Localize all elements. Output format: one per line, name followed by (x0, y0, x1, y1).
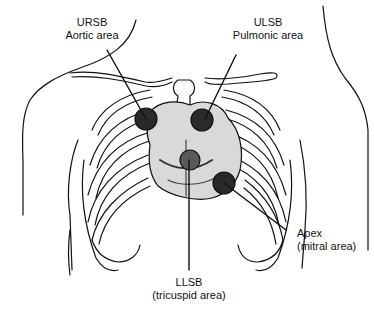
label-apex: Apex (mitral area) (297, 227, 356, 253)
chest-diagram (0, 0, 374, 309)
tricuspid-area-marker (180, 150, 200, 170)
label-ulsb-title: ULSB (227, 16, 309, 29)
label-apex-title: Apex (297, 227, 356, 240)
label-llsb-subtitle: (tricuspid area) (137, 289, 241, 302)
label-ursb-subtitle: Aortic area (56, 29, 128, 42)
pulmonic-area-marker (191, 109, 213, 131)
label-ursb: URSB Aortic area (56, 16, 128, 42)
label-ulsb: ULSB Pulmonic area (227, 16, 309, 42)
label-ulsb-subtitle: Pulmonic area (227, 29, 309, 42)
label-llsb-title: LLSB (137, 276, 241, 289)
label-llsb: LLSB (tricuspid area) (137, 276, 241, 302)
label-ursb-title: URSB (56, 16, 128, 29)
label-apex-subtitle: (mitral area) (297, 240, 356, 253)
